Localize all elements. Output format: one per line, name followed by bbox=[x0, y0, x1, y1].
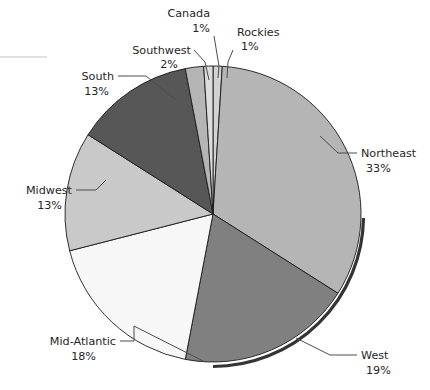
slice-label-rockies-value: 1% bbox=[241, 40, 259, 53]
pie-chart-canvas: Canada 1% Rockies 1% Southwest 2% South … bbox=[0, 0, 430, 390]
slice-label-midwest-value: 13% bbox=[37, 199, 62, 212]
slice-label-canada-name: Canada bbox=[167, 7, 210, 20]
slice-label-midatlantic-value: 18% bbox=[71, 350, 96, 363]
slice-label-west-name: West bbox=[361, 349, 389, 362]
slice-label-southwest-value: 2% bbox=[160, 58, 178, 71]
slice-label-south-name: South bbox=[81, 70, 114, 83]
pie-slices-group bbox=[65, 66, 361, 362]
pie-chart-figure: Canada 1% Rockies 1% Southwest 2% South … bbox=[0, 0, 430, 390]
slice-label-rockies-name: Rockies bbox=[237, 26, 280, 39]
slice-label-southwest-name: Southwest bbox=[132, 44, 191, 57]
slice-label-northeast-name: Northeast bbox=[361, 147, 417, 160]
slice-label-midwest-name: Midwest bbox=[26, 184, 73, 197]
slice-label-west-value: 19% bbox=[366, 364, 391, 377]
slice-label-south-value: 13% bbox=[84, 85, 109, 98]
slice-label-northeast-value: 33% bbox=[366, 162, 391, 175]
slice-label-midatlantic-name: Mid-Atlantic bbox=[50, 335, 116, 348]
leader-line-west bbox=[296, 338, 357, 355]
slice-label-canada-value: 1% bbox=[192, 22, 210, 35]
